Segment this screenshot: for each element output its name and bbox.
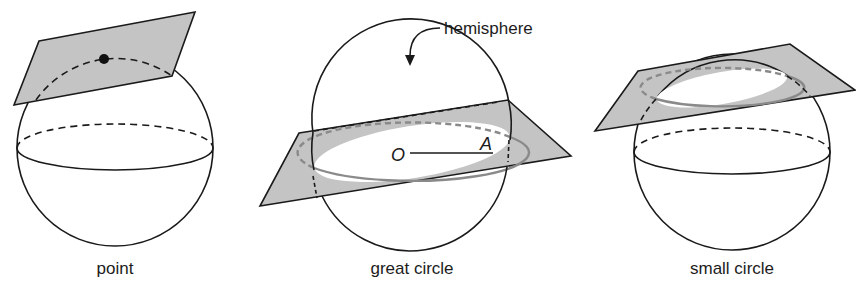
center-label-O: O [391,145,405,165]
equator-back-dashed [17,124,213,148]
caption-great-circle: great circle [370,259,453,278]
panel-small-circle: small circle [595,44,855,278]
sphere-intersection-diagram: point O A hemisphere great circle [0,0,856,288]
equator-back-dashed [634,128,830,152]
panel-point: point [14,12,213,278]
caption-small-circle: small circle [690,259,774,278]
panel-great-circle: O A hemisphere great circle [260,19,571,278]
equator-front [17,148,213,170]
callout-hemisphere: hemisphere [444,19,533,38]
hemisphere-callout-arrow [410,28,440,56]
tangent-point-dot [99,54,109,64]
point-label-A: A [479,134,492,154]
equator-front [634,152,830,174]
arrowhead-icon [405,55,415,66]
caption-point: point [97,259,134,278]
